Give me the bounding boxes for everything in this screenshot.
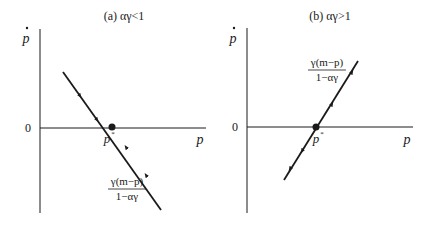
panel-b-title: (b) αγ>1 (309, 9, 350, 23)
svg-text:1−αγ: 1−αγ (116, 190, 138, 202)
panel-b-x-axis-label: p (403, 132, 411, 147)
svg-text:γ(m−p): γ(m−p) (310, 56, 344, 69)
svg-text:p: p (312, 131, 320, 146)
panel-b-line-label: γ(m−p) 1−αγ (308, 56, 346, 83)
panel-b-equilibrium-point (313, 124, 320, 131)
panel-a-title: (a) αγ<1 (104, 9, 145, 23)
dot-accent (26, 27, 28, 29)
dot-accent (233, 27, 235, 29)
panel-a-origin-label: 0 (25, 121, 31, 135)
panel-b-y-axis-label: p (229, 27, 237, 46)
panel-a-y-axis-label: p (22, 27, 30, 46)
panel-b: (b) αγ>1 p 0 p p * γ(m−p) 1−αγ (229, 9, 414, 213)
svg-text:p: p (22, 31, 30, 46)
svg-text:*: * (111, 130, 115, 138)
panel-a-x-axis-label: p (196, 132, 204, 147)
arrow-icon (146, 175, 150, 181)
svg-text:p: p (103, 131, 111, 146)
panel-b-equilibrium-label: p * (312, 130, 325, 146)
svg-text:*: * (320, 130, 324, 138)
panel-b-origin-label: 0 (232, 120, 238, 134)
panel-a: (a) αγ<1 p 0 p p * γ(m−p) 1−αγ (22, 9, 207, 213)
arrow-icon (126, 147, 130, 153)
phase-diagram: (a) αγ<1 p 0 p p * γ(m−p) 1−αγ (b) αγ>1 (0, 0, 434, 226)
panel-a-line-label: γ(m−p) 1−αγ (108, 175, 146, 202)
svg-text:p: p (229, 31, 237, 46)
svg-text:γ(m−p): γ(m−p) (110, 175, 144, 188)
svg-text:1−αγ: 1−αγ (316, 71, 338, 83)
